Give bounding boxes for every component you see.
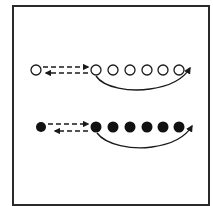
line-player-filled xyxy=(158,122,169,133)
line-player-filled xyxy=(142,122,153,133)
line-player-hollow xyxy=(125,65,135,75)
line-player-hollow xyxy=(142,65,152,75)
leader-player-hollow xyxy=(31,65,41,75)
filled-row xyxy=(36,122,192,148)
line-player-filled xyxy=(174,122,185,133)
line-player-hollow xyxy=(174,65,184,75)
line-player-filled xyxy=(91,122,102,133)
drill-diagram xyxy=(0,0,213,206)
hollow-row xyxy=(31,65,190,90)
line-player-hollow xyxy=(108,65,118,75)
line-player-hollow xyxy=(91,65,101,75)
line-player-filled xyxy=(108,122,119,133)
line-player-hollow xyxy=(158,65,168,75)
line-player-filled xyxy=(125,122,136,133)
leader-player-filled xyxy=(36,122,46,132)
